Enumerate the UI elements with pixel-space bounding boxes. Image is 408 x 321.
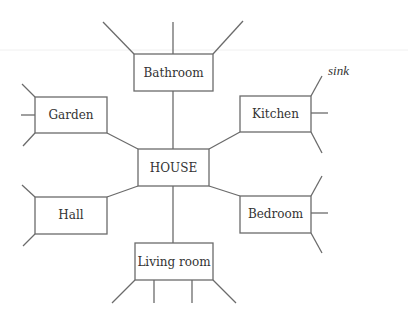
branch-line	[22, 84, 35, 97]
spider-diagram: Bathroom Garden Kitchen HOUSE Hall Bedro…	[0, 0, 408, 321]
node-bathroom: Bathroom	[134, 54, 213, 91]
branch-line	[112, 280, 135, 303]
connector-bedroom	[209, 186, 240, 196]
branches-garden	[21, 84, 35, 146]
node-label: Bathroom	[143, 66, 204, 80]
branch-line	[103, 22, 134, 54]
branch-line	[23, 234, 35, 246]
node-label: Bedroom	[248, 207, 304, 221]
branch-line	[311, 176, 322, 196]
node-kitchen: Kitchen	[240, 96, 311, 132]
node-bedroom: Bedroom	[240, 196, 311, 233]
node-garden: Garden	[35, 97, 107, 133]
branches-bathroom	[103, 21, 243, 54]
connector-garden	[107, 133, 138, 149]
node-hall: Hall	[35, 197, 107, 234]
node-label: Kitchen	[252, 107, 299, 121]
branch-line	[22, 185, 35, 197]
branch-line	[23, 133, 35, 146]
branch-line	[311, 132, 322, 153]
branch-line	[213, 280, 236, 303]
branch-line	[311, 233, 322, 253]
node-label: Hall	[58, 208, 83, 222]
branches-kitchen	[311, 76, 328, 153]
connector-hall	[107, 186, 138, 197]
branch-line	[213, 21, 243, 54]
branch-line-sink	[311, 76, 322, 96]
annotation-sink: sink	[328, 63, 349, 78]
node-house: HOUSE	[138, 149, 209, 186]
node-label: Garden	[49, 108, 94, 122]
node-label: HOUSE	[150, 161, 197, 175]
branches-hall	[22, 185, 35, 246]
node-label: Living room	[137, 255, 211, 269]
connector-kitchen	[209, 132, 240, 149]
branches-living-room	[112, 280, 236, 303]
branches-bedroom	[311, 176, 328, 253]
node-living-room: Living room	[135, 243, 213, 280]
